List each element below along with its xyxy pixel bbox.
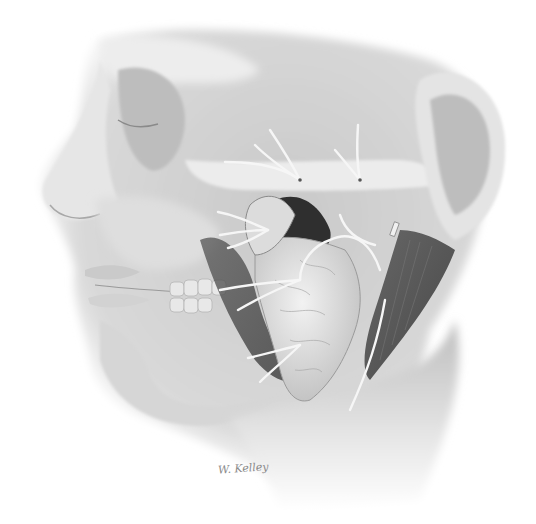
zygomatic-arch (185, 160, 441, 191)
anatomical-illustration (0, 0, 536, 524)
